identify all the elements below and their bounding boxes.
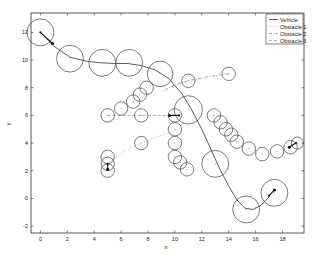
- center-marker: [225, 129, 226, 130]
- arrow-tail-dot: [268, 195, 270, 197]
- arrow-head-dot: [168, 114, 171, 117]
- arrow-head-dot: [106, 168, 109, 171]
- y-tick-label: 6: [25, 112, 28, 118]
- x-tick-label: 16: [253, 236, 259, 242]
- y-tick-label: 10: [22, 57, 28, 63]
- center-marker: [107, 156, 108, 157]
- center-marker: [146, 87, 147, 88]
- center-marker: [228, 73, 229, 74]
- legend: Vehicle Obstacle 1 Obstacle 2 Obstacle 3: [266, 14, 306, 44]
- y-tick-label: 2: [25, 168, 28, 174]
- center-marker: [213, 115, 214, 116]
- x-tick-label: 14: [226, 236, 232, 242]
- center-marker: [236, 141, 237, 142]
- center-marker: [180, 162, 181, 163]
- center-marker: [102, 62, 103, 63]
- x-tick-label: 4: [93, 236, 96, 242]
- center-marker: [277, 151, 278, 152]
- center-marker: [215, 163, 216, 164]
- center-marker: [220, 122, 221, 123]
- legend-label-vehicle: Vehicle: [280, 17, 298, 23]
- x-tick-label: 2: [66, 236, 69, 242]
- arrow-head-dot: [288, 146, 291, 149]
- center-marker: [160, 73, 161, 74]
- center-marker: [141, 142, 142, 143]
- arrow-tail-dot: [178, 114, 180, 116]
- center-marker: [186, 169, 187, 170]
- center-marker: [121, 108, 122, 109]
- center-marker: [274, 192, 275, 193]
- center-marker: [248, 148, 249, 149]
- center-marker: [188, 109, 189, 110]
- y-tick-label: 0: [25, 195, 28, 201]
- legend-label-obstacle-3: Obstacle 3: [280, 38, 306, 44]
- y-tick-label: 12: [22, 29, 28, 35]
- center-marker: [141, 115, 142, 116]
- y-tick-label: 8: [25, 85, 28, 91]
- x-tick-label: 6: [120, 236, 123, 242]
- arrow-tail-dot: [107, 163, 109, 165]
- y-axis-label: y: [5, 123, 11, 126]
- x-tick-label: 8: [146, 236, 149, 242]
- center-marker: [188, 80, 189, 81]
- center-marker: [129, 62, 130, 63]
- x-axis-label: x: [165, 244, 168, 250]
- center-marker: [174, 129, 175, 130]
- y-tick-label: -2: [23, 223, 28, 229]
- legend-label-obstacle-2: Obstacle 2: [280, 31, 306, 37]
- center-marker: [174, 156, 175, 157]
- x-tick-label: 12: [199, 236, 205, 242]
- arrow-head-dot: [273, 189, 276, 192]
- arrow-tail-dot: [39, 31, 41, 33]
- x-tick-label: 0: [39, 236, 42, 242]
- trajectory-chart: 024681012141618-2024681012 x y Vehicle O…: [0, 0, 318, 261]
- center-marker: [174, 142, 175, 143]
- legend-label-obstacle-1: Obstacle 1: [280, 24, 306, 30]
- center-marker: [139, 94, 140, 95]
- arrow-tail-dot: [295, 142, 297, 144]
- x-tick-label: 18: [279, 236, 285, 242]
- arrow-head-dot: [51, 42, 54, 45]
- center-marker: [231, 134, 232, 135]
- y-tick-label: 4: [25, 140, 28, 146]
- center-marker: [133, 101, 134, 102]
- x-tick-label: 10: [172, 236, 178, 242]
- center-marker: [262, 154, 263, 155]
- center-marker: [246, 209, 247, 210]
- center-marker: [69, 58, 70, 59]
- center-marker: [107, 115, 108, 116]
